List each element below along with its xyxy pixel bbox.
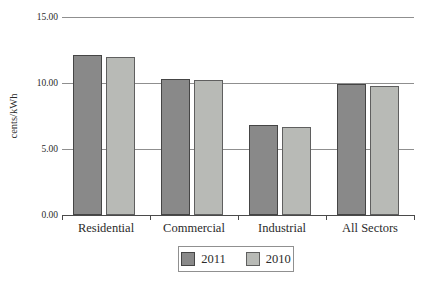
y-tick-label-5.00: 5.00 xyxy=(22,143,58,155)
legend: 20112010 xyxy=(178,246,294,272)
bar-2011-all-sectors xyxy=(337,84,366,215)
category-label-industrial: Industrial xyxy=(238,221,326,236)
category-label-residential: Residential xyxy=(62,221,150,236)
x-axis-tick xyxy=(238,215,239,220)
legend-item-2010: 2010 xyxy=(246,252,291,267)
x-axis-tick xyxy=(414,215,415,220)
x-axis-tick xyxy=(326,215,327,220)
y-tick-label-15.00: 15.00 xyxy=(22,11,58,23)
bar-2010-industrial xyxy=(282,127,311,215)
category-label-commercial: Commercial xyxy=(150,221,238,236)
bar-2011-industrial xyxy=(249,125,278,215)
legend-label-2010: 2010 xyxy=(266,252,291,267)
plot-area xyxy=(62,17,414,215)
gridline-15.00 xyxy=(62,17,414,18)
bar-2011-residential xyxy=(73,55,102,215)
legend-swatch-2010 xyxy=(246,252,260,266)
legend-label-2011: 2011 xyxy=(201,252,226,267)
bar-2010-residential xyxy=(106,57,135,215)
bar-2011-commercial xyxy=(161,79,190,215)
bar-chart-figure: cents/kWh 0.005.0010.0015.00 Residential… xyxy=(0,0,421,285)
y-tick-label-10.00: 10.00 xyxy=(22,77,58,89)
legend-item-2011: 2011 xyxy=(181,252,226,267)
bar-2010-commercial xyxy=(194,80,223,215)
x-axis-tick xyxy=(150,215,151,220)
y-tick-label-0.00: 0.00 xyxy=(22,209,58,221)
category-label-all-sectors: All Sectors xyxy=(326,221,414,236)
x-axis-tick xyxy=(62,215,63,220)
legend-swatch-2011 xyxy=(181,252,195,266)
y-axis-title: cents/kWh xyxy=(8,94,19,139)
bar-2010-all-sectors xyxy=(370,86,399,215)
